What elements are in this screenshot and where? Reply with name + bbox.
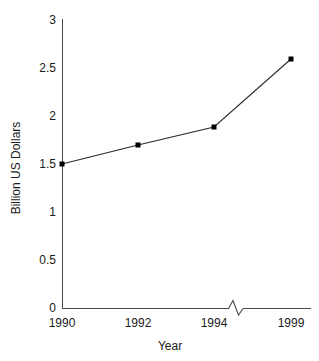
data-point-1994 [212, 125, 217, 130]
y-tick-label-1: 1 [49, 205, 56, 219]
x-axis-title: Year [158, 339, 182, 353]
y-tick-label-0-5: 0.5 [39, 253, 56, 267]
chart-figure: 3 2.5 2 1.5 1 0.5 0 1990 1992 1994 1999 … [0, 0, 319, 361]
chart-background [0, 0, 319, 361]
x-tick-label-1990: 1990 [49, 316, 76, 330]
x-tick-label-1992: 1992 [125, 316, 152, 330]
data-point-1990 [60, 162, 65, 167]
x-tick-label-1994: 1994 [201, 316, 228, 330]
y-tick-label-2: 2 [49, 109, 56, 123]
line-chart-canvas: 3 2.5 2 1.5 1 0.5 0 1990 1992 1994 1999 … [0, 0, 319, 361]
data-point-1992 [136, 143, 141, 148]
y-tick-label-1-5: 1.5 [39, 157, 56, 171]
y-tick-label-2-5: 2.5 [39, 61, 56, 75]
y-tick-label-0: 0 [49, 301, 56, 315]
y-axis-title: Billion US Dollars [9, 122, 23, 215]
y-tick-label-3: 3 [49, 13, 56, 27]
x-tick-label-1999: 1999 [278, 316, 305, 330]
data-point-1999 [289, 57, 294, 62]
